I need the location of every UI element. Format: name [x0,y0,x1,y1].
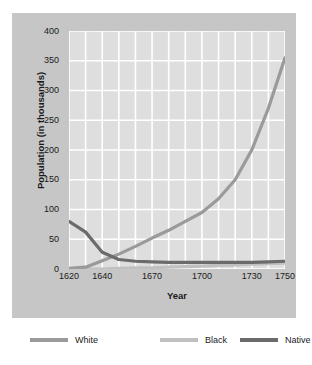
legend-label: Native American [285,335,312,345]
y-tick-label: 350 [33,56,59,65]
x-tick-label: 1700 [192,271,212,281]
chart-legend: WhiteBlackNative American [12,333,304,349]
y-tick-label: 250 [33,116,59,125]
y-axis-tick-labels: 050100150200250300350400 [29,13,59,318]
plot-svg [69,31,285,269]
x-axis-tick-labels: 162016401670170017301750 [69,271,285,285]
x-axis-title: Year [69,290,285,301]
x-tick-label: 1730 [242,271,262,281]
legend-swatch-icon [160,338,198,342]
y-tick-label: 100 [33,205,59,214]
plot-area [69,31,285,269]
legend-swatch-icon [30,338,68,342]
y-tick-label: 300 [33,86,59,95]
series-line-white [69,58,285,269]
y-tick-label: 200 [33,146,59,155]
y-tick-label: 150 [33,175,59,184]
x-tick-label: 1620 [59,271,79,281]
legend-item-native-american[interactable]: Native American [240,333,312,347]
y-tick-label: 400 [33,27,59,36]
legend-label: White [75,335,98,345]
y-tick-label: 50 [33,235,59,244]
x-tick-label: 1670 [142,271,162,281]
chart-panel: Population (in thousands) 05010015020025… [12,13,296,318]
x-tick-label: 1640 [92,271,112,281]
x-tick-label: 1750 [275,271,295,281]
legend-item-white[interactable]: White [30,333,98,347]
legend-item-black[interactable]: Black [160,333,227,347]
y-tick-label: 0 [33,265,59,274]
legend-swatch-icon [240,338,278,342]
population-line-chart-figure: Population (in thousands) 05010015020025… [0,0,312,365]
legend-label: Black [205,335,227,345]
